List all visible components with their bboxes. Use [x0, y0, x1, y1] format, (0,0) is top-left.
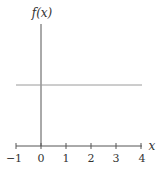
y-axis-label: f(x) [31, 6, 53, 20]
tick-label: 0 [38, 152, 45, 165]
tick-label: 2 [88, 152, 95, 165]
x-tick-labels: −1 0 1 2 3 4 [6, 152, 146, 165]
tick-label: 4 [139, 152, 146, 165]
x-axis-label: x [149, 139, 156, 153]
tick-label: −1 [6, 152, 22, 165]
tick-label: 3 [113, 152, 120, 165]
function-graph: f(x) x −1 0 1 2 3 4 [0, 0, 162, 174]
tick-label: 1 [63, 152, 70, 165]
